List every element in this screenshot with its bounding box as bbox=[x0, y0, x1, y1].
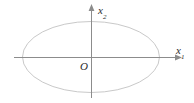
x-axis-label-subscript: 1 bbox=[181, 53, 185, 61]
x-axis-label: x1 bbox=[176, 45, 184, 56]
y-axis-arrowhead-icon bbox=[89, 4, 95, 11]
y-axis-label: x2 bbox=[98, 5, 106, 16]
ellipse-figure: x2 x1 O bbox=[0, 0, 194, 103]
y-axis-label-subscript: 2 bbox=[103, 13, 107, 21]
figure-canvas bbox=[0, 0, 194, 103]
origin-label: O bbox=[80, 61, 88, 72]
